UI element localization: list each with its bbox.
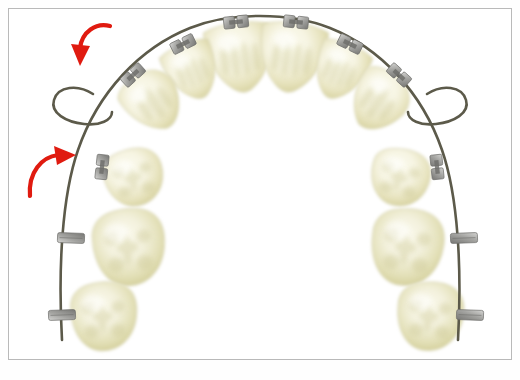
bracket-upper-right-first-premolar [430, 154, 445, 180]
tooth-upper-right-second-molar [395, 280, 466, 353]
tube-upper-left-second-molar [48, 310, 75, 321]
tube-upper-left-first-molar [57, 233, 84, 244]
right-teardrop-loop [408, 88, 467, 125]
tooth-upper-left-second-molar [69, 280, 140, 353]
tooth-upper-left-first-molar [89, 205, 169, 289]
tooth-upper-right-first-premolar [365, 143, 434, 211]
screenshot-canvas: Orthodontic maxillary arch with brackete… [0, 0, 520, 380]
tooth-upper-right-first-molar [368, 205, 448, 289]
tube-upper-right-second-molar [456, 310, 483, 321]
tube-upper-right-first-molar [450, 233, 477, 244]
dental-arch-illustration [0, 0, 520, 380]
tooth-upper-left-first-premolar [99, 143, 168, 211]
upper-left-force-arrow [71, 25, 110, 66]
left-teardrop-loop [53, 88, 112, 125]
